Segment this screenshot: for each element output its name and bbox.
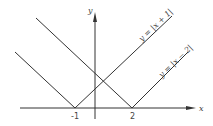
absolute-value-graph: x y -1 2 y = |x + 1| y = |x − 2| [0, 0, 213, 126]
curve-label-abs-x-minus-2: y = |x − 2| [156, 43, 194, 80]
y-axis-arrow-icon [93, 12, 97, 22]
x-axis-label: x [199, 104, 204, 113]
tick-label-2: 2 [130, 112, 135, 121]
y-axis-label: y [87, 6, 93, 15]
tick-label-minus-1: -1 [71, 112, 79, 121]
graph-canvas: x y -1 2 y = |x + 1| y = |x − 2| [0, 0, 213, 126]
x-axis-arrow-icon [186, 106, 196, 110]
curve-label-abs-x-plus-1: y = |x + 1| [136, 7, 174, 44]
curve-abs-x-minus-2 [36, 18, 188, 108]
